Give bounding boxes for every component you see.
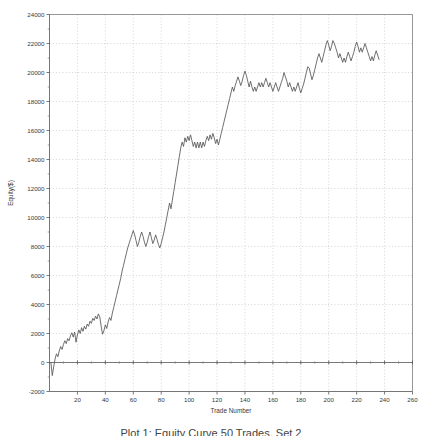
y-tick-label: 6000 <box>31 272 45 279</box>
y-tick-label: 12000 <box>27 185 45 192</box>
x-tick-label: 140 <box>240 396 251 403</box>
y-tick-label: 0 <box>41 359 45 366</box>
x-tick-label: 100 <box>184 396 195 403</box>
y-tick-label: 20000 <box>27 69 45 76</box>
x-tick-label: 80 <box>158 396 165 403</box>
x-axis-title: Trade Number <box>211 407 253 414</box>
x-tick-label: 60 <box>130 396 137 403</box>
x-tick-label: 220 <box>351 396 362 403</box>
x-tick-label: 180 <box>296 396 307 403</box>
x-tick-label: 240 <box>379 396 390 403</box>
y-tick-label: 22000 <box>27 40 45 47</box>
x-tick-label: 160 <box>268 396 279 403</box>
y-tick-label: 2000 <box>31 330 45 337</box>
y-tick-label: 18000 <box>27 98 45 105</box>
y-tick-label: -2000 <box>29 388 45 395</box>
y-tick-label: 16000 <box>27 127 45 134</box>
y-tick-label: 14000 <box>27 156 45 163</box>
equity-curve-figure: -200002000400060008000100001200014000160… <box>0 0 422 436</box>
y-tick-label: 8000 <box>31 243 45 250</box>
x-tick-label: 20 <box>74 396 81 403</box>
figure-caption: Plot 1: Equity Curve 50 Trades, Set 2 <box>0 427 422 436</box>
x-tick-label: 40 <box>102 396 109 403</box>
equity-curve-chart: -200002000400060008000100001200014000160… <box>0 0 422 436</box>
x-tick-label: 260 <box>407 396 418 403</box>
x-tick-label: 200 <box>324 396 335 403</box>
chart-background <box>0 0 422 436</box>
y-tick-label: 4000 <box>31 301 45 308</box>
y-tick-label: 10000 <box>27 214 45 221</box>
y-axis-title: Equity($) <box>7 180 15 206</box>
x-tick-label: 120 <box>212 396 223 403</box>
y-tick-label: 24000 <box>27 11 45 18</box>
